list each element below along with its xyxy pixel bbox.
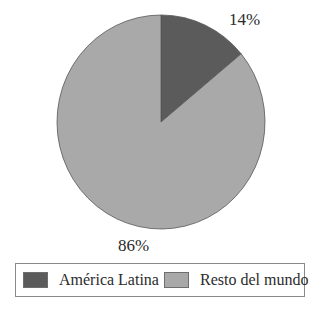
legend-item-america-latina: América Latina [23, 264, 159, 296]
legend-swatch-america-latina [23, 272, 48, 288]
legend-label: América Latina [59, 271, 159, 289]
slice-label-resto-del-mundo: 86% [118, 237, 149, 254]
pie-slices [57, 15, 265, 229]
slice-label-america-latina: 14% [229, 11, 260, 28]
legend-swatch-resto-del-mundo [164, 272, 189, 288]
legend-item-resto-del-mundo: Resto del mundo [164, 264, 308, 296]
chart-legend: América Latina Resto del mundo [15, 263, 305, 297]
legend-label: Resto del mundo [200, 271, 308, 289]
